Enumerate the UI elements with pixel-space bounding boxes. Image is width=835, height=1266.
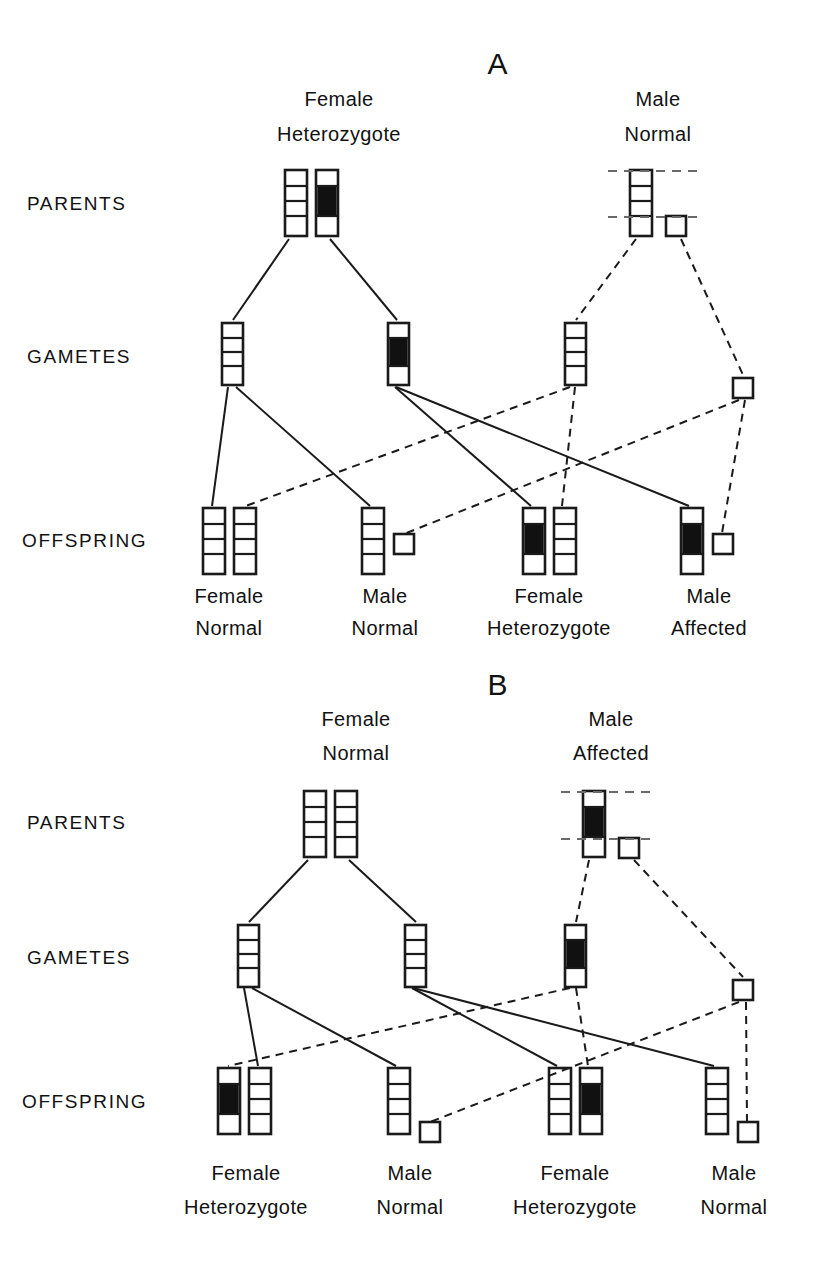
- panel-b-row-label-offspring: OFFSPRING: [22, 1091, 147, 1113]
- panel-a-parent-male-label-line1: Male: [636, 88, 681, 111]
- panel-a-offspring-2-label-line1: Male: [363, 585, 408, 608]
- panel-a-offspring-chromosomes: [203, 508, 733, 574]
- panel-a-parent-female-label-line2: Heterozygote: [277, 123, 401, 146]
- panel-b-offspring-4-label-line1: Male: [712, 1162, 757, 1185]
- panel-b-offspring-3-label-line2: Heterozygote: [513, 1196, 637, 1219]
- panel-b-parent-male-chromosomes: [561, 791, 653, 858]
- panel-b-parent-male-label-line1: Male: [589, 708, 634, 731]
- panel-a-letter: A: [487, 47, 508, 81]
- panel-b-offspring-4-label-line2: Normal: [701, 1196, 768, 1219]
- panel-a-row-label-offspring: OFFSPRING: [22, 530, 147, 552]
- panel-a-offspring-2-label-line2: Normal: [352, 617, 419, 640]
- panel-b-row-label-parents: PARENTS: [27, 812, 127, 834]
- panel-b-offspring-2-label-line1: Male: [388, 1162, 433, 1185]
- panel-a-row-label-parents: PARENTS: [27, 193, 127, 215]
- panel-b-fertilisation-links-maternal: [244, 988, 714, 1066]
- panel-b-parent-female-label-line2: Normal: [323, 742, 390, 765]
- panel-a-meiosis-links-maternal: [233, 239, 397, 320]
- panel-b-offspring-2-label-line2: Normal: [377, 1196, 444, 1219]
- panel-a-parent-male-label-line2: Normal: [625, 123, 692, 146]
- panel-b-offspring-1-label-line1: Female: [211, 1162, 280, 1185]
- panel-a-parent-male-chromosomes: [608, 170, 700, 236]
- panel-b-offspring-chromosomes: [218, 1068, 758, 1142]
- panel-b-row-label-gametes: GAMETES: [27, 947, 131, 969]
- panel-b-letter: B: [487, 668, 508, 702]
- panel-a-row-label-gametes: GAMETES: [27, 346, 131, 368]
- panel-b-parent-male-label-line2: Affected: [573, 742, 649, 765]
- panel-a-offspring-4-label-line1: Male: [687, 585, 732, 608]
- panel-a-meiosis-links-paternal: [576, 239, 743, 375]
- panel-a-offspring-3-label-line1: Female: [514, 585, 583, 608]
- panel-a-gamete-chromosomes: [222, 323, 753, 398]
- panel-a-offspring-4-label-line2: Affected: [671, 617, 747, 640]
- panel-a-parent-female-chromosomes: [285, 170, 338, 236]
- panel-b-offspring-3-label-line1: Female: [540, 1162, 609, 1185]
- panel-b-parent-female-chromosomes: [304, 791, 357, 857]
- panel-a-offspring-1-label-line1: Female: [194, 585, 263, 608]
- panel-a-offspring-3-label-line2: Heterozygote: [487, 617, 611, 640]
- panel-b-parent-female-label-line1: Female: [321, 708, 390, 731]
- figure-canvas: A Female Heterozygote Male Normal PARENT…: [0, 0, 835, 1266]
- panel-a-parent-female-label-line1: Female: [304, 88, 373, 111]
- panel-b-gamete-chromosomes: [238, 925, 753, 1000]
- panel-b-meiosis-links-maternal: [249, 860, 416, 922]
- panel-b-meiosis-links-paternal: [576, 860, 743, 977]
- panel-b-offspring-1-label-line2: Heterozygote: [184, 1196, 308, 1219]
- panel-a-fertilisation-links-maternal: [212, 387, 689, 506]
- panel-a-offspring-1-label-line2: Normal: [196, 617, 263, 640]
